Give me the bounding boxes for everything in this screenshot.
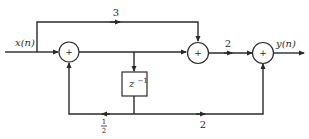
gain-2-bottom-label: 2 <box>200 119 206 130</box>
delay-label-exp: −1 <box>137 77 147 85</box>
gain-half-denominator: 2 <box>102 127 106 135</box>
adder-1-symbol: + <box>65 47 73 57</box>
output-label: y(n) <box>275 38 296 49</box>
adder-2-symbol: + <box>194 48 202 58</box>
gain-3-label: 3 <box>113 7 119 18</box>
gain-half-numerator: 1 <box>102 118 106 126</box>
block-diagram: + + + x(n) y(n) 3 2 2 1 2 z −1 <box>0 0 309 139</box>
input-label: x(n) <box>15 37 35 48</box>
feedback-right-path <box>134 64 263 114</box>
adder-3-symbol: + <box>259 48 267 58</box>
gain-2-top-label: 2 <box>225 38 231 49</box>
delay-label-base: z <box>128 78 135 89</box>
